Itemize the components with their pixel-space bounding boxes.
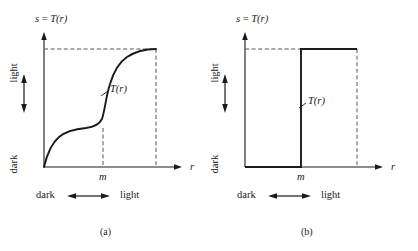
axis-title-equals: = bbox=[240, 13, 251, 24]
transformation-curve bbox=[245, 49, 357, 167]
y-axis-label-light: light bbox=[210, 63, 221, 82]
y-range-arrow-down-head bbox=[21, 104, 27, 113]
x-range-label-dark: dark bbox=[237, 190, 256, 201]
y-range-arrow-up-head bbox=[222, 74, 228, 83]
curve-label-tr: T(r) bbox=[308, 96, 325, 107]
x-range-label-dark: dark bbox=[36, 190, 55, 201]
x-axis-label-r: r bbox=[391, 162, 395, 173]
panel-b-plot bbox=[209, 0, 418, 251]
threshold-label-m: m bbox=[297, 172, 305, 183]
x-axis-label-r: r bbox=[190, 162, 194, 173]
panel-caption-a: (a) bbox=[100, 227, 111, 237]
x-range-arrow-right-head bbox=[302, 193, 311, 199]
axis-title-tr: T(r) bbox=[50, 13, 67, 24]
figure-container: s = T(r) light dark T(r) m r dark light … bbox=[0, 0, 418, 251]
axis-title-tr: T(r) bbox=[251, 13, 268, 24]
x-range-arrow-left-head bbox=[268, 193, 277, 199]
panel-a: s = T(r) light dark T(r) m r dark light … bbox=[0, 0, 209, 251]
panel-caption-b: (b) bbox=[301, 227, 313, 237]
y-axis-label-dark: dark bbox=[9, 155, 20, 174]
transformation-curve bbox=[44, 49, 156, 167]
curve-label-tr: T(r) bbox=[110, 84, 127, 95]
x-range-arrow-left-head bbox=[67, 193, 76, 199]
panel-b: s = T(r) light dark T(r) m r dark light … bbox=[209, 0, 418, 251]
y-axis-arrowhead bbox=[41, 32, 47, 40]
x-range-label-light: light bbox=[321, 190, 340, 201]
threshold-label-m: m bbox=[99, 172, 107, 183]
axis-title-s-equals-tr: s = T(r) bbox=[236, 14, 268, 25]
y-axis-label-light: light bbox=[9, 63, 20, 82]
axis-title-s-equals-tr: s = T(r) bbox=[35, 14, 67, 25]
panel-a-plot bbox=[0, 0, 209, 251]
x-axis-arrowhead bbox=[375, 164, 383, 170]
y-axis-arrowhead bbox=[242, 32, 248, 40]
axis-title-equals: = bbox=[39, 13, 50, 24]
x-range-label-light: light bbox=[120, 190, 139, 201]
y-range-arrow-up-head bbox=[21, 74, 27, 83]
y-axis-label-dark: dark bbox=[210, 155, 221, 174]
x-range-arrow-right-head bbox=[101, 193, 110, 199]
y-range-arrow-down-head bbox=[222, 104, 228, 113]
x-axis-arrowhead bbox=[174, 164, 182, 170]
curve-label-leader-line bbox=[299, 103, 306, 108]
